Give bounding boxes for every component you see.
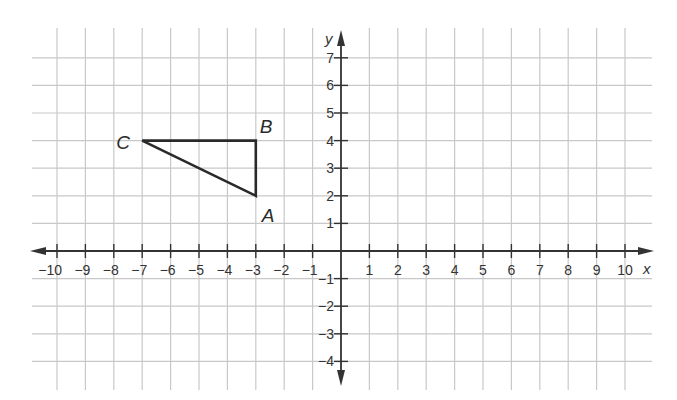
x-tick-label: −6 <box>160 262 176 278</box>
x-tick-label: −4 <box>216 262 232 278</box>
x-tick-label: 3 <box>422 262 430 278</box>
y-tick-label: −4 <box>318 353 334 369</box>
grid-lines <box>32 28 652 390</box>
x-tick-label: −7 <box>131 262 147 278</box>
axes <box>30 30 654 386</box>
triangle-abc: ABC <box>116 116 274 226</box>
y-axis-up-arrow-icon <box>337 30 345 46</box>
x-tick-label: 5 <box>479 262 487 278</box>
y-tick-label: 6 <box>326 77 334 93</box>
y-tick-label: 4 <box>326 133 334 149</box>
x-tick-label: −1 <box>302 262 318 278</box>
x-tick-label: −2 <box>273 262 289 278</box>
x-tick-label: 4 <box>451 262 459 278</box>
x-tick-label: −5 <box>188 262 204 278</box>
y-tick-label: −3 <box>318 326 334 342</box>
vertex-label-b: B <box>260 116 273 137</box>
x-tick-label: −9 <box>74 262 90 278</box>
tick-labels: −10−9−8−7−6−5−4−3−2−112345678910−4−3−2−1… <box>38 50 633 370</box>
y-tick-label: −2 <box>318 298 334 314</box>
y-axis-label: y <box>324 30 334 47</box>
x-tick-label: 6 <box>508 262 516 278</box>
x-tick-label: −8 <box>103 262 119 278</box>
x-axis-label: x <box>642 260 651 277</box>
x-tick-label: −10 <box>38 262 62 278</box>
x-tick-label: 1 <box>366 262 374 278</box>
x-tick-label: 8 <box>564 262 572 278</box>
vertex-label-a: A <box>261 205 275 226</box>
y-tick-label: 1 <box>326 215 334 231</box>
y-tick-label: 3 <box>326 160 334 176</box>
x-tick-label: 7 <box>536 262 544 278</box>
x-tick-label: 9 <box>593 262 601 278</box>
x-axis-left-arrow-icon <box>30 247 46 255</box>
x-axis-right-arrow-icon <box>638 247 654 255</box>
x-tick-label: −3 <box>245 262 261 278</box>
y-axis-down-arrow-icon <box>337 370 345 386</box>
x-tick-label: 2 <box>394 262 402 278</box>
vertex-label-c: C <box>116 132 130 153</box>
x-tick-label: 10 <box>617 262 633 278</box>
y-tick-label: 5 <box>326 105 334 121</box>
coordinate-plane: −10−9−8−7−6−5−4−3−2−112345678910−4−3−2−1… <box>0 0 677 400</box>
y-tick-label: 2 <box>326 188 334 204</box>
y-tick-label: 7 <box>326 50 334 66</box>
y-tick-label: −1 <box>318 271 334 287</box>
